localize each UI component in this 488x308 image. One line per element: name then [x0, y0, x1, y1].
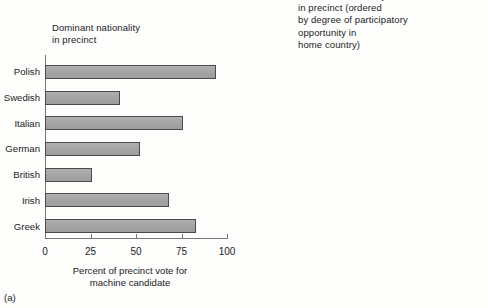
x-tick: [45, 234, 46, 239]
x-tick-label: 50: [130, 246, 141, 257]
bar-british: [45, 168, 92, 182]
chart-panel-b: Dominant nationality in precinct (ordere…: [244, 0, 488, 308]
chart-title-a: Dominant nationality in precinct: [52, 22, 140, 46]
bar-row: German: [45, 136, 227, 162]
x-tick-label: 0: [42, 246, 48, 257]
figure-container: Dominant nationality in precinct PolishS…: [0, 0, 488, 308]
category-label: Italian: [14, 118, 40, 129]
bar-german: [45, 142, 140, 156]
x-tick-label: 75: [176, 246, 187, 257]
x-tick: [227, 234, 228, 239]
bar-row: Irish: [45, 188, 227, 214]
category-label: German: [5, 143, 40, 154]
x-tick: [136, 234, 137, 239]
x-tick: [91, 234, 92, 239]
x-tick-label: 100: [219, 246, 236, 257]
category-label: British: [13, 169, 40, 180]
category-label: Polish: [14, 66, 40, 77]
bar-row: British: [45, 162, 227, 188]
chart-title-b: Dominant nationality in precinct (ordere…: [298, 0, 408, 51]
plot-area-a: PolishSwedishItalianGermanBritishIrishGr…: [45, 59, 227, 239]
category-label: Irish: [22, 195, 40, 206]
bar-greek: [45, 219, 196, 233]
bar-italian: [45, 116, 183, 130]
x-axis-title-a: Percent of precinct vote for machine can…: [35, 265, 225, 290]
bar-swedish: [45, 91, 120, 105]
x-tick-label: 25: [85, 246, 96, 257]
bar-irish: [45, 193, 169, 207]
bar-row: Italian: [45, 110, 227, 136]
chart-panel-a: Dominant nationality in precinct PolishS…: [0, 0, 244, 308]
x-tick: [182, 234, 183, 239]
category-label: Greek: [14, 221, 40, 232]
bar-row: Polish: [45, 59, 227, 85]
bar-polish: [45, 65, 216, 79]
bar-row: Swedish: [45, 85, 227, 111]
panel-tag-a: (a): [4, 292, 16, 303]
category-label: Swedish: [4, 92, 40, 103]
